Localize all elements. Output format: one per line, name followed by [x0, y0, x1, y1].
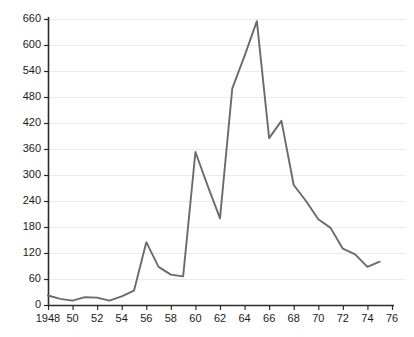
- data-line-series-1: [48, 21, 380, 301]
- y-axis-tick-label: 600: [2, 39, 41, 50]
- tick-marks: [44, 20, 393, 311]
- y-axis-tick-label: 480: [2, 91, 41, 102]
- chart-plot-area: [0, 0, 414, 337]
- axes: [48, 17, 394, 306]
- y-axis-tick-label: 540: [2, 65, 41, 76]
- y-axis-tick-label: 420: [2, 117, 41, 128]
- x-axis-tick-label: 76: [372, 313, 412, 324]
- y-axis-tick-label: 300: [2, 169, 41, 180]
- y-axis-tick-label: 660: [2, 13, 41, 24]
- y-axis-tick-label: 60: [2, 273, 41, 284]
- y-axis-tick-label: 180: [2, 221, 41, 232]
- line-chart: 0601201802403003604204805406006601948505…: [0, 0, 414, 337]
- y-axis-tick-label: 120: [2, 247, 41, 258]
- y-axis-tick-label: 240: [2, 195, 41, 206]
- y-axis-tick-label: 360: [2, 143, 41, 154]
- y-axis-tick-label: 0: [2, 299, 41, 310]
